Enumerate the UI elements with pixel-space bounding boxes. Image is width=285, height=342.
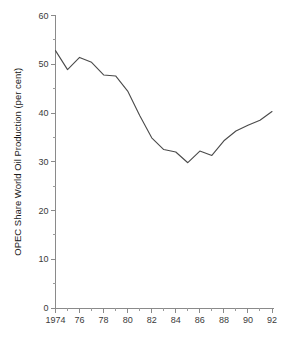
data-line-0	[56, 51, 273, 163]
x-tick-label: 90	[243, 315, 253, 325]
x-tick-label: 78	[99, 315, 109, 325]
y-axis-title: OPEC Share World Oil Production (per cen…	[12, 68, 23, 256]
y-tick-label: 50	[38, 59, 48, 69]
line-chart: 0102030405060 1974767880828486889092 OPE…	[0, 0, 285, 342]
x-tick-label: 76	[75, 315, 85, 325]
y-tick-label: 30	[38, 157, 48, 167]
y-axis-title-text: OPEC Share World Oil Production (per cen…	[12, 68, 23, 256]
x-tick-label: 80	[123, 315, 133, 325]
x-tick-label: 82	[147, 315, 157, 325]
y-axis: 0102030405060	[38, 11, 55, 314]
y-tick-label: 60	[38, 11, 48, 21]
x-tick-label: 84	[171, 315, 181, 325]
y-tick-label: 0	[43, 303, 48, 313]
x-axis: 1974767880828486889092	[45, 308, 277, 325]
x-tick-label: 88	[219, 315, 229, 325]
x-tick-label: 92	[267, 315, 277, 325]
y-tick-label: 40	[38, 108, 48, 118]
y-tick-label: 10	[38, 254, 48, 264]
data-series-group	[56, 51, 273, 163]
y-tick-label: 20	[38, 206, 48, 216]
x-tick-label: 86	[195, 315, 205, 325]
x-tick-label: 1974	[45, 315, 65, 325]
chart-container: 0102030405060 1974767880828486889092 OPE…	[0, 0, 285, 342]
